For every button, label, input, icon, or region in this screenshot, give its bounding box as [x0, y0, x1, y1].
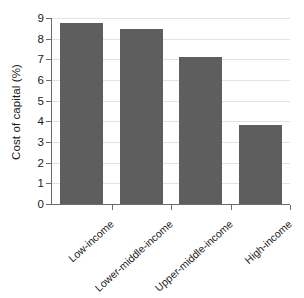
x-tick-mark	[290, 205, 291, 210]
y-tick-label: 2	[4, 157, 44, 169]
y-tick-label: 0	[4, 198, 44, 210]
y-tick-label: 4	[4, 115, 44, 127]
plot-area	[52, 18, 290, 204]
x-tick-mark	[231, 205, 232, 210]
y-tick-label: 5	[4, 95, 44, 107]
bar	[120, 29, 163, 204]
bar	[179, 57, 222, 204]
bar	[60, 23, 103, 204]
x-tick-mark	[112, 205, 113, 210]
y-axis-title: Cost of capital (%)	[10, 22, 22, 202]
bar-chart-figure: Cost of capital (%) 0123456789 Low-incom…	[0, 0, 304, 298]
x-tick-mark	[171, 205, 172, 210]
y-tick-label: 6	[4, 74, 44, 86]
y-tick-label: 8	[4, 33, 44, 45]
y-tick-label: 9	[4, 12, 44, 24]
bar	[239, 125, 282, 204]
y-tick-label: 1	[4, 177, 44, 189]
y-tick-label: 7	[4, 53, 44, 65]
gridline	[52, 18, 290, 19]
y-tick-label: 3	[4, 136, 44, 148]
